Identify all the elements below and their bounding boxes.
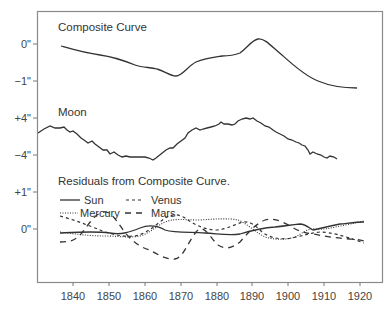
x-label-1860: 1860 bbox=[133, 290, 157, 302]
composite-curve-title: Composite Curve bbox=[58, 21, 147, 33]
x-label-1890: 1890 bbox=[240, 290, 264, 302]
y-label-residual-plus1: +1" bbox=[15, 186, 32, 198]
composite-curve-line bbox=[61, 39, 357, 88]
x-label-1920: 1920 bbox=[348, 290, 372, 302]
x-label-1880: 1880 bbox=[205, 290, 229, 302]
y-label-moon-minus4: −4" bbox=[15, 149, 32, 161]
legend-label-mars: Mars bbox=[151, 207, 176, 219]
y-label-composite-minus1: −1" bbox=[15, 75, 32, 87]
y-label-moon-plus4: +4" bbox=[15, 112, 32, 124]
residuals-title: Residuals from Composite Curve. bbox=[58, 175, 230, 187]
x-tick-labels: 1840 1850 1860 1870 1880 1890 1900 1910 … bbox=[61, 290, 372, 302]
legend-label-sun: Sun bbox=[84, 194, 104, 206]
y-axis bbox=[33, 44, 37, 229]
y-label-residual-0: 0" bbox=[21, 223, 31, 235]
legend-label-venus: Venus bbox=[151, 194, 182, 206]
x-label-1900: 1900 bbox=[276, 290, 300, 302]
moon-line bbox=[38, 118, 337, 160]
residual-mercury-line bbox=[60, 219, 364, 239]
chart-canvas: 0" −1" +4" −4" +1" 0" 1840 1850 1860 187… bbox=[0, 0, 392, 311]
moon-title: Moon bbox=[58, 106, 87, 118]
x-label-1870: 1870 bbox=[169, 290, 193, 302]
residual-sun-line bbox=[60, 222, 364, 235]
plot-frame bbox=[38, 12, 383, 283]
y-tick-labels: 0" −1" +4" −4" +1" 0" bbox=[15, 38, 32, 235]
x-label-1850: 1850 bbox=[97, 290, 121, 302]
x-label-1910: 1910 bbox=[312, 290, 336, 302]
y-label-composite-0: 0" bbox=[21, 38, 31, 50]
legend: Sun Venus Mercury Mars bbox=[60, 194, 182, 219]
x-label-1840: 1840 bbox=[61, 290, 85, 302]
